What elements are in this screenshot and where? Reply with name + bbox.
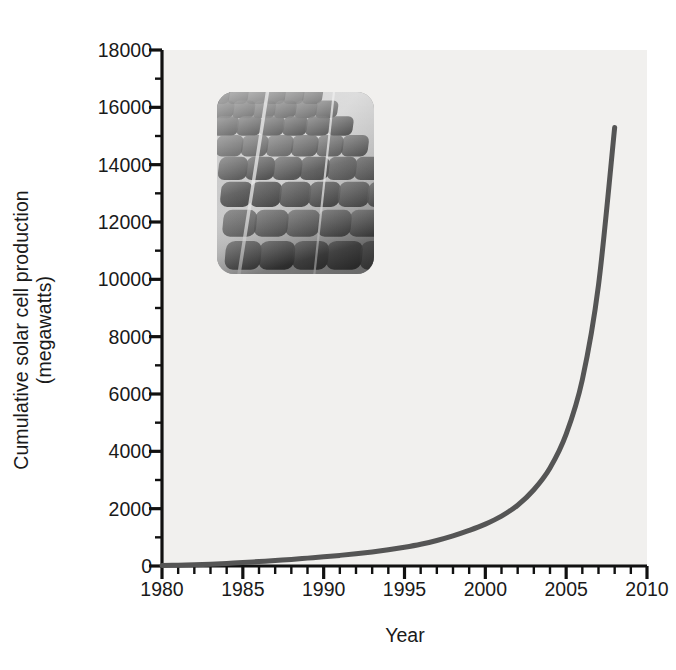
x-axis-tick-label: 1985: [221, 578, 264, 601]
x-axis-tick-label: 1980: [140, 578, 183, 601]
x-axis-tick-label: 2005: [544, 578, 587, 601]
chart-figure: Cumulative solar cell production (megawa…: [0, 0, 676, 670]
x-axis-tick-label: 1990: [302, 578, 345, 601]
x-axis-title: Year: [162, 624, 648, 647]
x-axis-tick-label: 2000: [464, 578, 507, 601]
solar-panel-photo-inset: [217, 92, 374, 274]
x-axis-tick-label: 2010: [625, 578, 668, 601]
solar-panel-photo-svg: [217, 92, 374, 274]
x-axis-tick-label: 1995: [383, 578, 426, 601]
